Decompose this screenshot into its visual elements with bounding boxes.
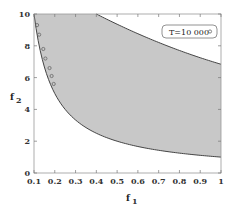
y-tick-label: 4 xyxy=(24,104,30,114)
y-tick-label: 10 xyxy=(19,9,31,19)
x-tick-label: 0.2 xyxy=(48,176,62,186)
y-tick-label: 2 xyxy=(24,136,30,146)
x-axis-label-sub: 1 xyxy=(132,196,138,206)
x-tick-label: 1 xyxy=(218,176,224,186)
x-tick-label: 0.9 xyxy=(193,176,207,186)
x-tick-label: 0.6 xyxy=(131,176,145,186)
x-tick-label: 0.7 xyxy=(152,176,166,186)
y-tick-label: 6 xyxy=(24,73,30,83)
legend-label: T=10 000 xyxy=(169,28,209,37)
chart: 0.10.20.30.40.50.60.70.80.910246810f1f2T… xyxy=(0,0,235,211)
x-tick-label: 0.4 xyxy=(89,176,103,186)
x-tick-label: 0.8 xyxy=(172,176,186,186)
y-tick-label: 0 xyxy=(24,168,30,178)
y-tick-label: 8 xyxy=(24,41,30,51)
y-axis-label: f xyxy=(10,92,15,102)
x-axis-label: f xyxy=(126,193,131,203)
x-tick-label: 0.5 xyxy=(110,176,124,186)
y-axis-label-sub: 2 xyxy=(16,95,22,105)
x-tick-label: 0.3 xyxy=(69,176,83,186)
